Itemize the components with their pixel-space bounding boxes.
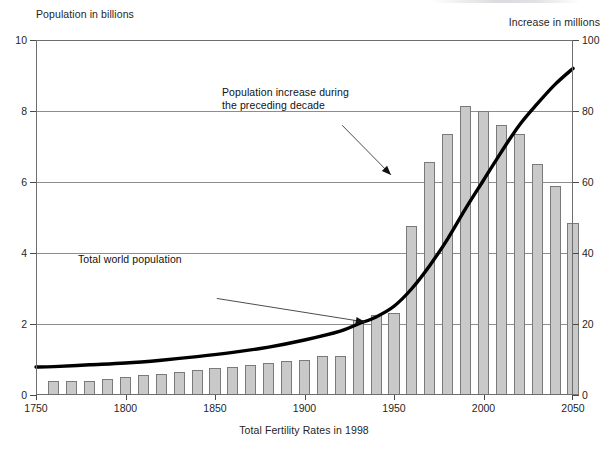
y-tick-right [573,182,579,183]
y-axis-label-left: 2 [21,319,27,330]
annotation-increase-label: Population increase during the preceding… [222,86,349,112]
y-axis-label-right: 100 [582,35,600,46]
x-axis-label: 2050 [561,402,584,414]
y-tick-right [573,111,579,112]
y-axis-label-right: 0 [582,390,588,401]
right-axis-title: Increase in millions [509,16,600,28]
y-axis-label-right: 20 [582,319,594,330]
x-axis-label: 2000 [472,402,495,414]
x-tick [305,395,306,400]
x-axis-label: 1800 [114,402,137,414]
y-axis-label-right: 80 [582,106,594,117]
scan-artifact [430,0,580,3]
x-tick [126,395,127,400]
y-axis-label-right: 60 [582,177,594,188]
x-tick [215,395,216,400]
y-tick-right [573,40,579,41]
x-tick [394,395,395,400]
x-axis-label: 1950 [382,402,405,414]
left-axis-title: Population in billions [36,8,134,20]
y-tick-right [573,324,579,325]
x-axis-title: Total Fertility Rates in 1998 [0,424,608,436]
increase-annotation-arrow [342,125,391,175]
population-annotation-arrow [217,298,365,324]
y-axis-label-left: 4 [21,248,27,259]
annotation-population-label: Total world population [78,253,182,266]
x-tick [572,395,573,400]
y-tick-right [573,253,579,254]
chart-figure: Population in billions Increase in milli… [0,0,608,452]
x-tick [484,395,485,400]
y-axis-label-left: 10 [15,35,27,46]
x-tick [36,395,37,400]
y-axis-label-left: 8 [21,106,27,117]
y-axis-label-right: 40 [582,248,594,259]
x-axis-label: 1850 [203,402,226,414]
x-axis-label: 1900 [293,402,316,414]
y-axis-label-left: 6 [21,177,27,188]
x-axis-label: 1750 [24,402,47,414]
y-tick-right [573,395,579,396]
y-axis-label-left: 0 [21,390,27,401]
